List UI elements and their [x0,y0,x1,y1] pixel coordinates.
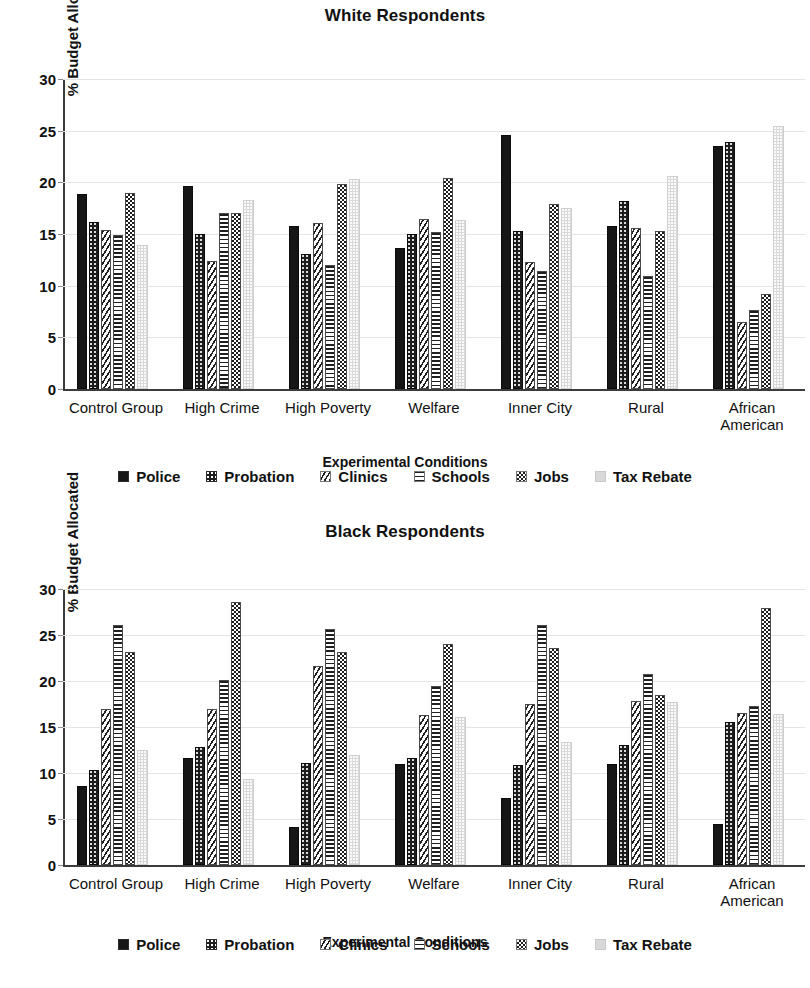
bar [137,245,148,389]
bar [219,680,230,865]
bar [561,208,572,389]
y-tick-label: 30 [39,581,56,598]
bar [619,201,630,389]
bar [137,750,148,865]
bar-group [501,587,572,865]
bar [761,294,772,389]
x-axis-category-label: African American [689,875,810,910]
legend-white: PoliceProbationClinicsSchoolsJobsTax Reb… [0,468,810,485]
x-axis-line-white [63,389,805,391]
legend-swatch-icon [414,939,425,950]
legend-item[interactable]: Schools [414,468,490,485]
legend-swatch-icon [414,471,425,482]
legend-swatch-icon [118,939,129,950]
chart-black-respondents: Black Respondents % Budget Allocated 051… [0,508,810,988]
bar-group [77,587,148,865]
y-tick-mark [58,681,63,682]
legend-swatch-icon [118,471,129,482]
bar [549,648,560,865]
bar [77,786,88,865]
bar [313,666,324,865]
bar [501,135,512,389]
legend-label: Jobs [534,936,569,953]
bar-group [183,587,254,865]
bar [607,226,618,389]
bar [431,686,442,865]
y-tick-label: 15 [39,226,56,243]
bar [725,142,736,389]
bar [113,235,124,389]
legend-label: Police [136,936,180,953]
legend-swatch-icon [320,471,331,482]
legend-swatch-icon [516,939,527,950]
legend-label: Police [136,468,180,485]
bar [513,231,524,389]
bar [349,755,360,865]
bar [289,827,300,865]
bar [655,695,666,865]
legend-item[interactable]: Probation [206,936,294,953]
y-tick-label: 10 [39,765,56,782]
bar [501,798,512,865]
y-tick-label: 25 [39,627,56,644]
y-tick-label: 25 [39,122,56,139]
bar [407,234,418,389]
legend-item[interactable]: Tax Rebate [595,468,692,485]
bar [643,276,654,389]
bar [667,702,678,865]
legend-item[interactable]: Clinics [320,468,387,485]
chart-title-black: Black Respondents [0,508,810,542]
bar [289,226,300,389]
legend-label: Tax Rebate [613,936,692,953]
bar [537,271,548,389]
bar [525,262,536,389]
y-tick-mark [58,79,63,80]
bar [195,747,206,865]
bar [549,204,560,389]
bar-group [713,77,784,389]
bar [207,261,218,389]
legend-item[interactable]: Probation [206,468,294,485]
bar-group [289,587,360,865]
y-tick-label: 5 [48,329,56,346]
legend-item[interactable]: Jobs [516,936,569,953]
bar-group [501,77,572,389]
legend-label: Tax Rebate [613,468,692,485]
bar [561,742,572,865]
bar [619,745,630,865]
bar-group [289,77,360,389]
legend-item[interactable]: Jobs [516,468,569,485]
legend-label: Schools [432,468,490,485]
bar [243,779,254,865]
bar-group [607,77,678,389]
y-tick-mark [58,727,63,728]
legend-item[interactable]: Tax Rebate [595,936,692,953]
bar [89,222,100,389]
legend-label: Probation [224,468,294,485]
legend-label: Probation [224,936,294,953]
bar [713,824,724,865]
bar-group [607,587,678,865]
legend-black: PoliceProbationClinicsSchoolsJobsTax Reb… [0,936,810,953]
bar [301,254,312,389]
x-axis-category-label: African American [689,399,810,434]
bar [537,625,548,865]
y-tick-label: 20 [39,673,56,690]
legend-item[interactable]: Schools [414,936,490,953]
legend-item[interactable]: Police [118,936,180,953]
bar [231,213,242,389]
chart-title-white: White Respondents [0,0,810,26]
legend-item[interactable]: Clinics [320,936,387,953]
y-tick-mark [58,182,63,183]
bar [337,184,348,389]
y-axis-line-white [63,79,65,391]
y-tick-mark [58,389,63,390]
bar [243,200,254,389]
bar [125,652,136,865]
bar [125,193,136,389]
legend-item[interactable]: Police [118,468,180,485]
y-tick-mark [58,131,63,132]
bar [101,230,112,389]
bar [761,608,772,865]
bar-group [77,77,148,389]
